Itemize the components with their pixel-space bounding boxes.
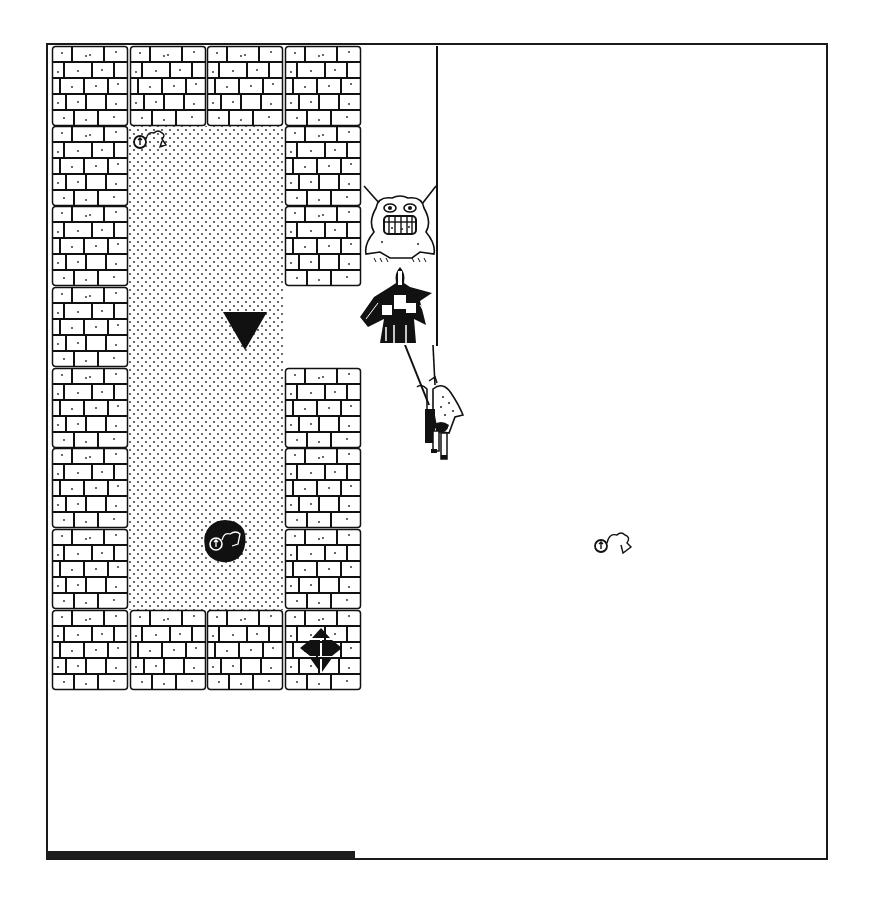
health-bar-label: Health [47,851,48,852]
top-wall-row [131,47,361,126]
health-bar: Health [47,851,355,858]
key-ring-item[interactable] [593,529,633,557]
armored-knight-monster[interactable] [360,265,438,347]
right-wall-column [286,127,361,690]
left-wall-column [53,47,128,690]
player-direction-marker [222,311,268,351]
direction-compass[interactable] [298,626,344,674]
grinning-ogre-monster[interactable] [362,182,438,266]
bottom-wall-row [131,611,283,690]
key-ring-item[interactable] [132,127,168,151]
hero-adventurer[interactable] [403,345,465,460]
dark-pit-with-key[interactable] [202,518,248,564]
